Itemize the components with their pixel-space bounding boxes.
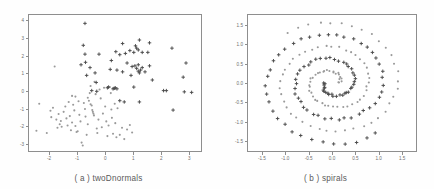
data-point-plus [90, 89, 94, 93]
data-point-plus [265, 92, 269, 96]
data-point-plus [183, 90, 187, 94]
figure-container: 43210-1-2-3-2-10123 ( a ) twoDnormals 1.… [0, 0, 434, 189]
data-point-dot [69, 115, 71, 117]
data-point-dot [307, 23, 309, 25]
data-point-dot [71, 121, 73, 123]
data-point-plus [267, 100, 271, 104]
x-tick-label: -1 [75, 156, 79, 161]
data-point-dot [111, 117, 113, 119]
data-point-plus [330, 117, 334, 121]
data-point-dot [322, 71, 324, 73]
data-point-dot [295, 116, 297, 118]
x-tick-label: 1.0 [375, 156, 381, 161]
data-point-dot [81, 142, 83, 144]
data-point-dot [50, 116, 52, 118]
y-tick-mark [26, 91, 29, 92]
data-point-plus [319, 57, 323, 61]
data-point-dot [397, 80, 399, 82]
data-point-dot [310, 125, 312, 127]
data-point-plus [380, 76, 384, 80]
data-point-plus [165, 89, 169, 93]
data-point-dot [71, 95, 73, 97]
data-point-dot [114, 122, 116, 124]
data-point-plus [283, 47, 287, 51]
data-point-dot [363, 62, 365, 64]
data-point-dot [87, 123, 89, 125]
data-point-dot [385, 47, 387, 49]
data-point-dot [377, 117, 379, 119]
data-point-plus [171, 108, 175, 112]
data-point-plus [123, 100, 127, 104]
data-point-plus [380, 90, 384, 94]
data-point-plus [321, 140, 325, 144]
x-tick-mark [133, 152, 134, 155]
data-point-dot [344, 129, 346, 131]
x-tick-label: 3 [188, 156, 191, 161]
data-point-plus [355, 141, 359, 145]
data-point-plus [293, 87, 297, 91]
data-point-dot [390, 54, 392, 56]
data-point-dot [320, 22, 322, 24]
y-tick-mark [26, 38, 29, 39]
data-point-dot [90, 103, 92, 105]
data-point-plus [143, 70, 147, 74]
data-point-dot [96, 132, 98, 134]
x-tick-label: 2 [160, 156, 163, 161]
data-point-dot [280, 93, 282, 95]
data-point-dot [83, 102, 85, 104]
data-point-plus [146, 51, 150, 55]
data-point-dot [319, 71, 321, 73]
data-point-plus [132, 51, 136, 55]
data-point-plus [190, 91, 194, 95]
panel-spirals: 1.51.00.50.0-0.5-1.0-1.5-1.5-1.0-0.50.00… [217, 0, 434, 189]
data-point-plus [328, 56, 332, 60]
data-point-dot [366, 67, 368, 69]
data-point-dot [49, 110, 51, 112]
data-point-plus [374, 56, 378, 60]
data-point-plus [121, 42, 125, 46]
data-point-plus [365, 136, 369, 140]
data-point-dot [115, 136, 117, 138]
data-point-dot [326, 45, 328, 47]
data-point-plus [138, 38, 142, 42]
data-point-plus [316, 114, 320, 118]
data-point-plus [128, 49, 132, 53]
data-point-plus [381, 70, 385, 74]
data-point-dot [363, 125, 365, 127]
data-point-plus [298, 68, 302, 72]
data-point-dot [316, 100, 318, 102]
x-tick-mark [77, 152, 78, 155]
data-point-dot [102, 113, 104, 115]
data-point-dot [283, 101, 285, 103]
data-point-dot [328, 70, 330, 72]
data-point-dot [341, 22, 343, 24]
y-tick-label: 0.0 [223, 81, 243, 86]
data-point-dot [114, 103, 116, 105]
data-point-plus [335, 33, 339, 37]
y-tick-label: 0 [4, 89, 24, 94]
x-tick-mark [355, 152, 356, 155]
data-point-plus [181, 75, 185, 79]
y-tick-label: -1.0 [223, 119, 243, 124]
y-tick-label: -2 [4, 124, 24, 129]
data-point-dot [310, 92, 312, 94]
data-point-plus [263, 84, 267, 88]
data-point-plus [335, 95, 339, 99]
data-point-plus [97, 52, 101, 56]
data-point-dot [327, 105, 329, 107]
x-tick-label: 0.5 [352, 156, 358, 161]
data-point-dot [388, 102, 390, 104]
data-point-dot [312, 95, 314, 97]
y-tick-mark [245, 122, 248, 123]
data-point-dot [292, 58, 294, 60]
scatter-plot-a [0, 0, 217, 189]
data-point-plus [341, 93, 345, 97]
data-point-dot [352, 127, 354, 129]
data-point-plus [302, 106, 306, 110]
data-point-dot [84, 108, 86, 110]
y-tick-label: 1.5 [223, 22, 243, 27]
data-point-dot [314, 74, 316, 76]
data-point-dot [88, 100, 90, 102]
x-tick-label: -0.5 [305, 156, 313, 161]
data-point-plus [305, 108, 309, 112]
